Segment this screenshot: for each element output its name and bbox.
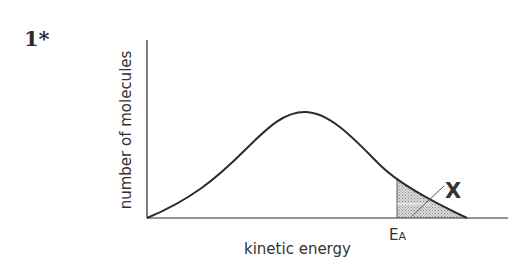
activation-energy-label: EA: [389, 226, 406, 244]
ea-subscript: A: [398, 230, 406, 243]
shaded-area-label: X: [445, 179, 461, 203]
x-axis-label: kinetic energy: [244, 240, 351, 258]
distribution-plot: [0, 0, 528, 273]
